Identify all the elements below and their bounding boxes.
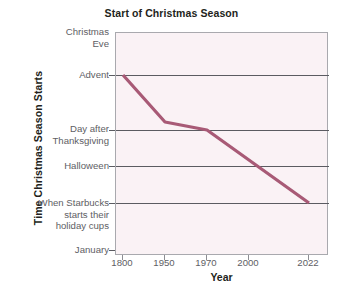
chart-figure: Start of Christmas Season Time Christmas… (0, 0, 343, 307)
x-tick-label-2022: 2022 (285, 257, 331, 268)
y-tick-label-day-after-thanksgiving: Day after Thanksgiving (3, 123, 109, 146)
x-tick-label-1800: 1800 (99, 257, 145, 268)
y-tick-label-christmas-eve: Christmas Eve (3, 26, 109, 49)
x-tick-label-2000: 2000 (225, 257, 271, 268)
bottom-caption-clipped (10, 299, 250, 307)
y-tick-label-line: Eve (3, 38, 109, 50)
y-tick-label-line: Day after (3, 123, 109, 135)
x-tick-label-1970: 1970 (183, 257, 229, 268)
y-tick-label-line: January (3, 244, 109, 256)
y-tick-label-halloween: Halloween (3, 160, 109, 172)
y-tick-label-january: January (3, 244, 109, 256)
y-tick-label-advent: Advent (3, 69, 109, 81)
y-tick-label-line: Advent (3, 69, 109, 81)
series-polyline (123, 75, 309, 203)
y-tick-label-line: Halloween (3, 160, 109, 172)
series-line-christmas-season (116, 33, 329, 256)
y-tick-label-starbucks: When Starbucks starts their holiday cups (3, 197, 109, 232)
plot-area (115, 32, 328, 255)
y-tick-label-line: starts their (3, 209, 109, 221)
y-tick-label-line: When Starbucks (3, 197, 109, 209)
y-tick-label-line: Thanksgiving (3, 135, 109, 147)
x-tick-label-1950: 1950 (141, 257, 187, 268)
y-tick-label-line: Christmas (3, 26, 109, 38)
x-axis-title: Year (115, 271, 328, 283)
y-tick-label-line: holiday cups (3, 220, 109, 232)
chart-title: Start of Christmas Season (0, 7, 343, 19)
